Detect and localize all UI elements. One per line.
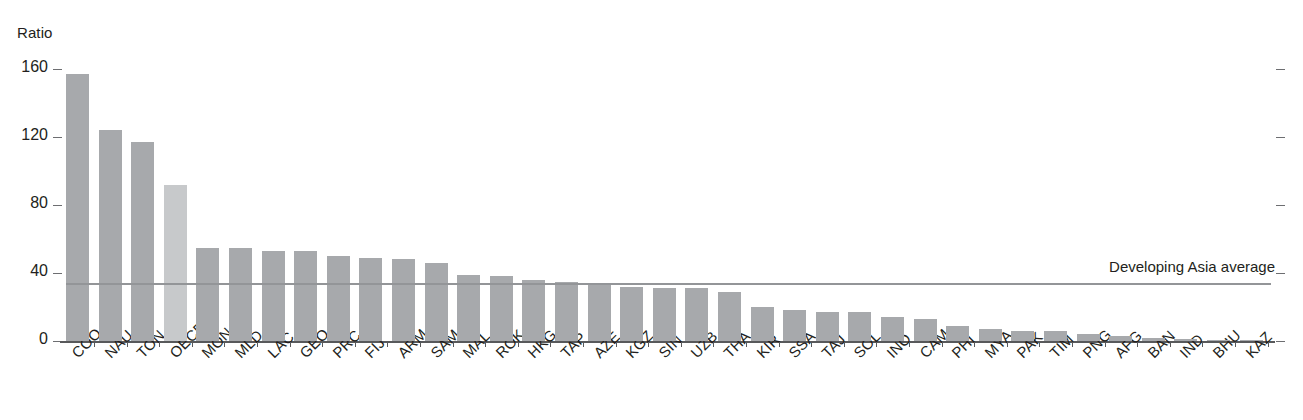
y-axis-right-tick-mark-80 [1276,205,1285,206]
y-axis-right-tick-mark-160 [1276,69,1285,70]
x-axis-tick-mark-lac [290,342,291,347]
x-axis-tick-mark-sam [453,342,454,347]
bar-afg[interactable] [1109,336,1132,341]
bar-coo[interactable] [66,74,89,341]
x-axis-tick-mark-sin [681,342,682,347]
bar-tap[interactable] [555,282,578,342]
bar-fij[interactable] [359,258,382,341]
x-axis-tick-mark-oecd [192,342,193,347]
bar-chart: Ratio 04080120160 COONAUTONOECDMONMLDLAC… [0,0,1303,420]
bar-kir[interactable] [751,307,774,341]
bar-png[interactable] [1077,334,1100,341]
x-axis-tick-mark-cam [942,342,943,347]
developing-asia-average-line [66,283,1271,285]
bar-arm[interactable] [392,259,415,341]
x-axis-tick-mark-coo [94,342,95,347]
bar-ino[interactable] [881,317,904,341]
bar-prc[interactable] [327,256,350,341]
bar-aze[interactable] [588,283,611,341]
bar-mld[interactable] [229,248,252,342]
x-axis-tick-mark-kaz [1268,342,1269,347]
x-axis-tick-mark-ton [159,342,160,347]
x-axis-tick-mark-png [1105,342,1106,347]
bar-phi[interactable] [946,326,969,341]
bar-mya[interactable] [979,329,1002,341]
bar-ssa[interactable] [783,310,806,341]
bar-uzb[interactable] [685,288,708,341]
x-axis-tick-mark-afg [1137,342,1138,347]
x-axis-tick-mark-prc [355,342,356,347]
bar-ban[interactable] [1142,338,1165,341]
bar-ind[interactable] [1174,339,1197,341]
x-axis-tick-mark-ssa [811,342,812,347]
bar-sol[interactable] [848,312,871,341]
x-axis-tick-mark-mya [1007,342,1008,347]
y-axis-tick-label-40: 40 [0,262,48,280]
x-axis-tick-mark-ino [909,342,910,347]
bar-cam[interactable] [914,319,937,341]
x-axis-tick-mark-mld [257,342,258,347]
bar-hkg[interactable] [522,280,545,341]
bar-bhu[interactable] [1207,340,1230,342]
y-axis-tick-mark-40 [53,273,62,274]
bar-pak[interactable] [1011,331,1034,341]
x-axis-tick-mark-kgz [648,342,649,347]
bar-sin[interactable] [653,288,676,341]
x-axis-tick-mark-sol [876,342,877,347]
x-axis-tick-mark-ind [1202,342,1203,347]
x-axis-tick-mark-hkg [550,342,551,347]
x-axis-tick-mark-mon [224,342,225,347]
x-axis-tick-mark-tha [746,342,747,347]
y-axis-tick-mark-160 [53,69,62,70]
x-axis-tick-mark-nau [127,342,128,347]
bar-taj[interactable] [816,312,839,341]
x-axis-tick-mark-mal [485,342,486,347]
y-axis-title: Ratio [17,24,53,41]
x-axis-tick-mark-bhu [1235,342,1236,347]
y-axis-right-tick-mark-0 [1276,341,1285,342]
bar-tim[interactable] [1044,331,1067,341]
x-axis-tick-mark-uzb [713,342,714,347]
x-axis-tick-mark-tim [1072,342,1073,347]
bar-oecd[interactable] [164,185,187,341]
x-axis-tick-mark-rok [518,342,519,347]
bar-ton[interactable] [131,142,154,341]
bar-mon[interactable] [196,248,219,342]
y-axis-tick-mark-80 [53,205,62,206]
bar-tha[interactable] [718,292,741,341]
x-axis-tick-mark-taj [844,342,845,347]
developing-asia-average-label: Developing Asia average [1109,258,1275,275]
x-axis-tick-mark-fij [387,342,388,347]
bar-lac[interactable] [262,251,285,341]
x-axis-tick-mark-arm [420,342,421,347]
bar-nau[interactable] [99,130,122,341]
bar-kaz[interactable] [1240,340,1263,342]
x-axis-tick-mark-aze [616,342,617,347]
bar-rok[interactable] [490,276,513,341]
x-axis-tick-mark-ban [1170,342,1171,347]
bar-geo[interactable] [294,251,317,341]
bar-kgz[interactable] [620,287,643,341]
x-axis-tick-mark-phi [974,342,975,347]
y-axis-tick-label-80: 80 [0,194,48,212]
x-axis-tick-mark-geo [322,342,323,347]
y-axis-tick-label-0: 0 [0,330,48,348]
y-axis-tick-mark-120 [53,137,62,138]
bar-sam[interactable] [425,263,448,341]
x-axis-tick-mark-tap [583,342,584,347]
y-axis-tick-label-120: 120 [0,126,48,144]
y-axis-tick-label-160: 160 [0,58,48,76]
y-axis-right-tick-mark-120 [1276,137,1285,138]
x-axis-tick-mark-kir [779,342,780,347]
y-axis-right-tick-mark-40 [1276,273,1285,274]
x-axis-tick-mark-pak [1039,342,1040,347]
